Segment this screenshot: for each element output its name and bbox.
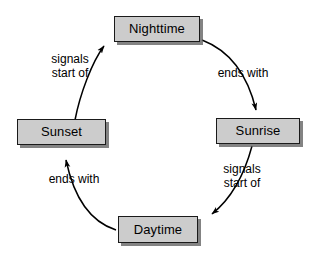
edge-label-line: start of — [36, 66, 104, 80]
edge-daytime-to-sunset — [66, 160, 116, 230]
edge-label-nighttime-to-sunrise: ends with — [205, 66, 281, 80]
edge-label-daytime-to-sunset: ends with — [36, 172, 112, 186]
node-nighttime-label: Nighttime — [129, 22, 185, 35]
edge-label-line: ends with — [36, 172, 112, 186]
edge-label-line: ends with — [205, 66, 281, 80]
edge-label-line: start of — [208, 176, 276, 190]
edge-label-sunrise-to-daytime: signals start of — [208, 162, 276, 190]
node-daytime[interactable]: Daytime — [118, 216, 198, 243]
edge-label-line: signals — [36, 52, 104, 66]
node-daytime-label: Daytime — [134, 223, 182, 236]
node-nighttime[interactable]: Nighttime — [114, 16, 200, 42]
node-sunrise[interactable]: Sunrise — [216, 118, 300, 144]
node-sunset-label: Sunset — [41, 125, 82, 138]
edge-label-line: signals — [208, 162, 276, 176]
diagram-canvas: Nighttime Sunrise Daytime Sunset signals… — [0, 0, 316, 257]
edge-label-sunset-to-nighttime: signals start of — [36, 52, 104, 80]
node-sunset[interactable]: Sunset — [17, 119, 106, 145]
node-sunrise-label: Sunrise — [236, 124, 281, 137]
